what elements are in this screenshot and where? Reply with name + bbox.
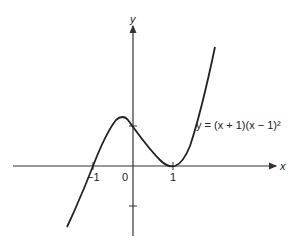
- tick-label-1: 1: [170, 171, 176, 183]
- tick-label-neg1: −1: [87, 171, 100, 183]
- function-curve: [67, 47, 215, 227]
- y-axis-label: y: [129, 13, 137, 25]
- equation-label: y = (x + 1)(x − 1)²: [196, 119, 281, 131]
- tick-label-0: 0: [122, 171, 128, 183]
- graph-canvas: y x −1 0 1 y = (x + 1)(x − 1)²: [0, 0, 293, 244]
- x-axis-label: x: [279, 160, 286, 172]
